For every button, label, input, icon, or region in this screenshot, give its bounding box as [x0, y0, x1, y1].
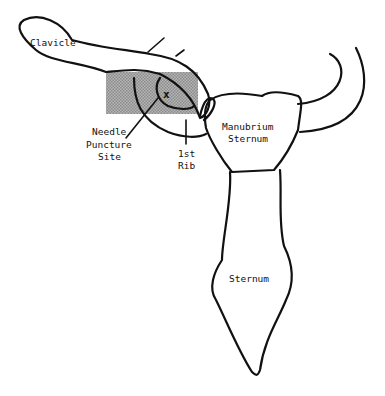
label-needle-2: Puncture — [86, 139, 132, 150]
label-needle-3: Site — [98, 151, 121, 162]
right-rib-inner — [298, 54, 341, 104]
label-rib-2: Rib — [178, 160, 195, 171]
clavicle-tick-1 — [148, 38, 164, 52]
label-manubrium-1: Manubrium — [222, 121, 274, 132]
puncture-marker: x — [163, 88, 170, 101]
anatomy-diagram: x Clavicle Needle Puncture Site 1st Rib … — [0, 0, 385, 396]
label-clavicle: Clavicle — [30, 37, 76, 48]
label-needle-1: Needle — [92, 126, 127, 137]
clavicle-tick-2 — [176, 50, 184, 56]
label-rib-1: 1st — [178, 148, 195, 159]
label-manubrium-2: Sternum — [228, 133, 268, 144]
label-sternum: Sternum — [229, 273, 269, 284]
